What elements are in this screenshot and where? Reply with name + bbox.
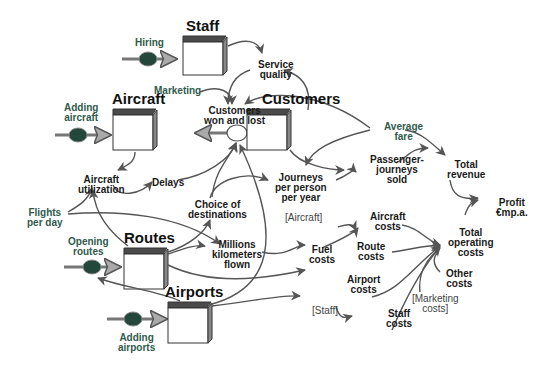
opening-routes-label: Opening routes	[68, 237, 109, 257]
customers-won-lost-label: Customers won and lost	[204, 106, 265, 126]
adding-aircraft-valve-icon	[69, 128, 87, 142]
adding-airports-label: Adding airports	[118, 333, 155, 353]
delays-label: Delays	[152, 178, 184, 188]
choice-of-destinations-label: Choice of destinations	[188, 200, 247, 220]
staff-box-icon	[183, 36, 227, 75]
staff-costs-label: Staff costs	[386, 309, 412, 329]
total-operating-costs-label: Total operating costs	[448, 228, 494, 258]
fuel-costs-label: Fuel costs	[309, 245, 335, 265]
millions-km-flown-label: Millions kilometers flown	[212, 240, 262, 270]
flights-per-day-label: Flights per day	[27, 208, 63, 228]
staff-reference-label: [Staff]	[312, 306, 338, 316]
aircraft-costs-label: Aircraft costs	[370, 212, 406, 232]
hiring-valve-icon	[139, 52, 157, 66]
adding-airports-valve-icon	[124, 312, 142, 326]
total-revenue-label: Total revenue	[447, 160, 485, 180]
route-costs-label: Route costs	[357, 242, 385, 262]
aircraft-box-icon	[113, 109, 157, 150]
average-fare-label: Average fare	[384, 122, 423, 142]
hiring-label: Hiring	[135, 38, 164, 48]
routes-stock-title: Routes	[124, 229, 175, 246]
aircraft-reference-label: [Aircraft]	[285, 213, 322, 223]
airports-box-icon	[168, 302, 212, 343]
staff-stock-title: Staff	[186, 17, 219, 34]
airport-costs-label: Airport costs	[347, 275, 380, 295]
passenger-journeys-sold-label: Passenger- journeys sold	[370, 155, 424, 185]
marketing-label: Marketing	[154, 86, 201, 96]
airports-stock-title: Airports	[165, 283, 223, 300]
profit-label: Profit €mp.a.	[496, 198, 528, 218]
customers-valve-icon	[227, 125, 247, 141]
adding-aircraft-label: Adding aircraft	[64, 103, 98, 123]
customers-stock-title: Customers	[262, 90, 340, 107]
service-quality-label: Service quality	[258, 60, 294, 80]
marketing-costs-reference-label: [Marketing costs]	[412, 294, 459, 314]
routes-box-icon	[124, 248, 168, 289]
journeys-per-person-label: Journeys per person per year	[275, 173, 327, 203]
causal-arrows	[68, 41, 478, 330]
other-costs-label: Other costs	[446, 269, 473, 289]
opening-routes-valve-icon	[83, 260, 101, 274]
aircraft-utilization-label: Aircraft utilization	[78, 175, 125, 195]
